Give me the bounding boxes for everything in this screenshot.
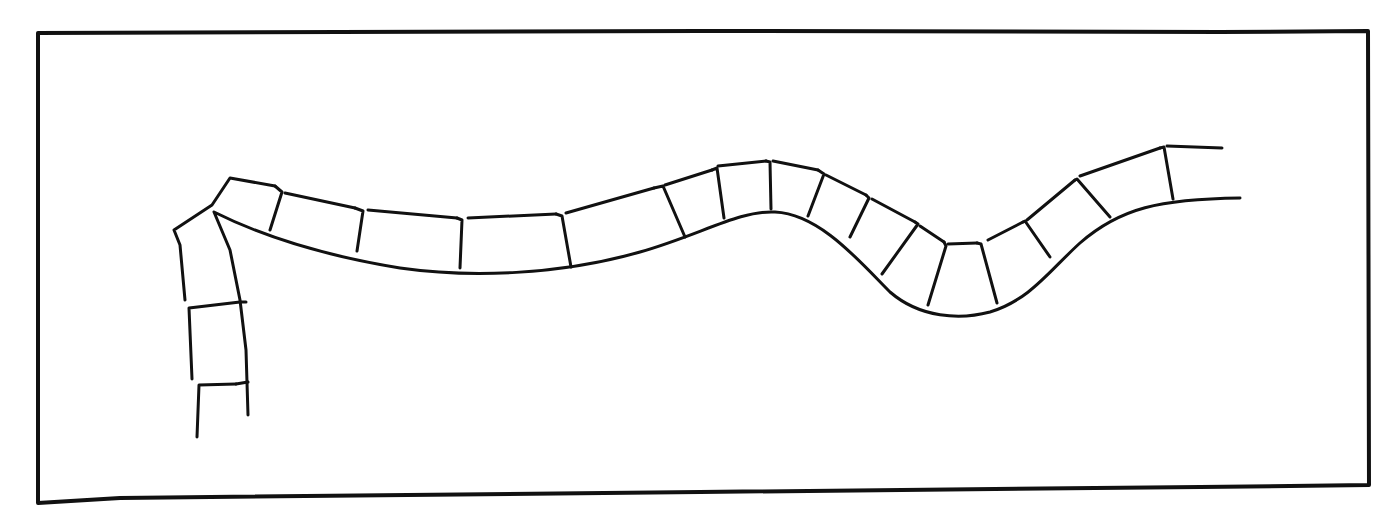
voussoir-joints [236, 147, 1173, 384]
picture-frame-border [38, 31, 1369, 503]
arch-outer-edge [174, 146, 1222, 437]
arch-inner-edge [214, 198, 1240, 415]
serpentine-arch-sketch [0, 0, 1386, 532]
drawing-canvas [0, 0, 1386, 532]
